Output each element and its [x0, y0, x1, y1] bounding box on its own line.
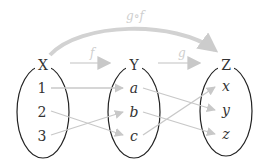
composite-arrow	[50, 29, 215, 55]
element-z: z	[221, 126, 230, 142]
element-2: 2	[38, 104, 47, 120]
composite-label: g∘f	[126, 9, 147, 23]
composition-diagram: g∘f f g X Y Z 1 2 3 a b c x y z	[0, 0, 268, 168]
element-3: 3	[38, 128, 47, 144]
element-b: b	[130, 104, 139, 120]
set-y-label: Y	[128, 57, 139, 73]
element-1: 1	[38, 80, 47, 96]
set-x-label: X	[38, 57, 48, 73]
element-x: x	[222, 78, 230, 94]
map-c-x	[143, 87, 215, 135]
map-b-z	[143, 112, 215, 134]
g-label: g	[178, 46, 186, 60]
f-label: f	[89, 46, 97, 60]
element-c: c	[130, 128, 138, 144]
element-y: y	[221, 102, 231, 118]
set-z-label: Z	[221, 57, 231, 73]
element-a: a	[130, 80, 138, 96]
map-a-y	[143, 88, 215, 110]
